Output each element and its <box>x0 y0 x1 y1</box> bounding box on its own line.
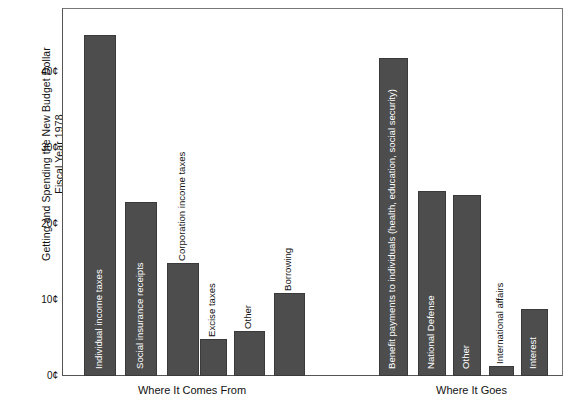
bar-label: Borrowing <box>283 248 293 291</box>
bar-label: Other <box>243 305 253 329</box>
bar[interactable]: Corporation income taxes <box>167 263 199 376</box>
plot-area: Individual income taxesSocial insurance … <box>62 8 563 376</box>
bar-label: Social insurance receipts <box>135 262 145 369</box>
bar[interactable]: Other <box>234 331 265 376</box>
bar-label: Corporation income taxes <box>177 152 187 261</box>
budget-dollar-bar-chart: Getting and Spending the New Budget Doll… <box>0 0 571 408</box>
bar-label: Interest <box>528 337 538 369</box>
bar-label: Excise taxes <box>207 283 217 337</box>
bar-label: Other <box>461 345 471 369</box>
bar-label: National Defense <box>426 295 436 369</box>
y-tick-label: 0¢ <box>22 371 58 381</box>
y-tick-label: 10¢ <box>22 295 58 305</box>
bar[interactable]: Benefit payments to individuals (health,… <box>379 58 408 376</box>
y-tick-label: 40¢ <box>22 67 58 77</box>
bar-label: International affairs <box>495 282 505 363</box>
bar[interactable]: Borrowing <box>274 293 305 376</box>
bar-label: Benefit payments to individuals (health,… <box>387 89 397 369</box>
group-caption-where-it-comes-from: Where It Comes From <box>62 384 322 396</box>
bar[interactable]: Interest <box>521 309 548 376</box>
bar[interactable]: Other <box>453 195 481 376</box>
bar[interactable]: Excise taxes <box>200 339 227 376</box>
bar[interactable]: Individual income taxes <box>84 35 116 376</box>
group-caption-where-it-goes: Where It Goes <box>380 384 563 396</box>
bar[interactable]: Social insurance receipts <box>125 202 157 376</box>
bar[interactable]: International affairs <box>489 366 514 376</box>
bar[interactable]: National Defense <box>418 191 446 376</box>
y-tick-label: 20¢ <box>22 219 58 229</box>
y-axis-title-line-1: Getting and Spending the New Budget Doll… <box>40 4 53 304</box>
bar-label: Individual income taxes <box>94 269 104 369</box>
y-tick-label: 30¢ <box>22 143 58 153</box>
